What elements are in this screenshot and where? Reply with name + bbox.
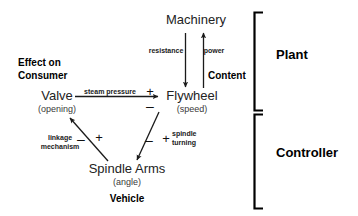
sign-steam-pressure-plus: +: [146, 85, 154, 98]
sign-spindle-turning-minus: –: [145, 133, 153, 147]
edge-resistance-label: resistance: [149, 47, 184, 54]
bracket-plant: [255, 13, 264, 111]
edge-linkage-mechanism-label: linkage mechanism: [38, 134, 82, 152]
annotation-effect-on-consumer-line1: Effect on: [18, 57, 61, 68]
edge-spindle-turning-label-line2: turning: [172, 139, 196, 146]
edge-spindle-turning-label-line1: spindle: [172, 130, 197, 137]
sign-steam-pressure-minus: –: [146, 99, 154, 113]
sign-linkage-minus: –: [77, 132, 85, 146]
node-valve-label: Valve: [41, 89, 73, 102]
annotation-content: Content: [208, 71, 246, 81]
edge-linkage-mechanism-label-line2: mechanism: [41, 143, 80, 150]
node-spindle-arms-sublabel: (angle): [113, 178, 141, 187]
annotation-effect-on-consumer-line2: Consumer: [18, 70, 67, 81]
node-valve-sublabel: (opening): [38, 105, 76, 114]
annotation-effect-on-consumer: Effect on Consumer: [18, 56, 90, 82]
bracket-controller: [255, 115, 264, 209]
node-flywheel-label: Flywheel: [166, 89, 217, 102]
bracket-controller-label: Controller: [276, 146, 338, 159]
sign-linkage-plus: +: [95, 131, 103, 144]
node-machinery-label: Machinery: [166, 13, 226, 26]
sign-spindle-turning-plus: +: [162, 132, 170, 145]
edge-steam-pressure-label: steam pressure: [84, 88, 136, 95]
edge-power-label: power: [204, 47, 225, 54]
annotation-vehicle: Vehicle: [110, 194, 144, 204]
edge-spindle-turning-label: spindle turning: [172, 130, 212, 148]
node-spindle-arms-label: Spindle Arms: [89, 162, 166, 175]
edge-linkage-mechanism-label-line1: linkage: [48, 134, 72, 141]
diagram-canvas: Machinery Valve (opening) Flywheel (spee…: [0, 0, 358, 216]
node-flywheel-sublabel: (speed): [177, 105, 208, 114]
bracket-plant-label: Plant: [276, 48, 308, 61]
